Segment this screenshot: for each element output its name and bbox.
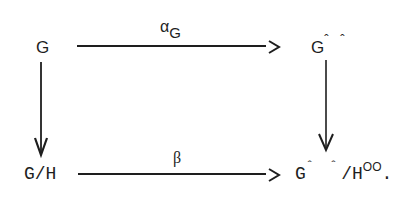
beta-symbol: β [173,149,181,166]
arrow-bottom-label: β [173,150,181,166]
arrow-top-label: αG [160,19,181,35]
node-top-right: Gˆ ˆ [311,39,349,56]
arrow-left [35,62,47,155]
double-caret-superscript: ˆ ˆ [306,159,341,174]
trailing-period: . [382,164,393,184]
node-bottom-right: Gˆ ˆ/HOO. [295,165,392,183]
node-bottom-left-text: G/H [24,164,56,184]
alpha-subscript: G [169,24,181,41]
node-top-left-text: G [36,38,49,57]
quotient-h: /H [341,164,363,184]
double-caret-superscript: ˆ ˆ [324,32,348,47]
arrow-right [319,60,333,150]
node-bottom-right-base: G [295,164,306,184]
node-top-left: G [36,39,49,56]
double-o-superscript: OO [363,160,382,174]
node-bottom-left: G/H [24,165,56,183]
alpha-symbol: α [160,18,169,35]
arrow-top [77,41,279,53]
arrow-bottom [78,169,279,181]
node-top-right-base: G [311,38,324,57]
